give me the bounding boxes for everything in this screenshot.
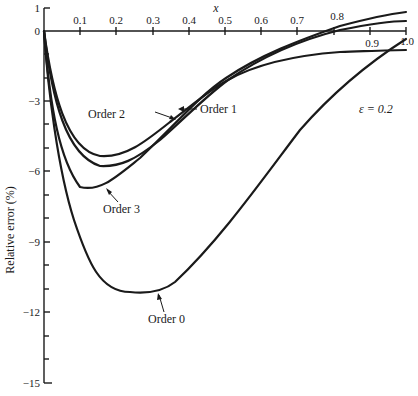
x-tick-0.8: 0.8 — [330, 10, 344, 22]
x-tick-0.5: 0.5 — [218, 14, 232, 26]
y-tick-1: 1 — [35, 2, 41, 14]
label-order-3: Order 3 — [103, 202, 140, 216]
x-tick-0.6: 0.6 — [254, 14, 268, 26]
x-tick-0.7: 0.7 — [290, 14, 304, 26]
curves — [44, 12, 406, 293]
epsilon-annotation: ε = 0.2 — [359, 102, 393, 116]
curve-order-3 — [44, 12, 406, 188]
x-axis-title: x — [212, 1, 219, 15]
label-order-2: Order 2 — [88, 107, 125, 121]
label-order-0: Order 0 — [148, 312, 185, 326]
curve-order-0 — [44, 31, 406, 293]
y-tick-minus9: −9 — [28, 236, 40, 248]
relative-error-chart: 1 0 −3 −6 −9 −12 −15 Relative error (%) … — [0, 0, 418, 396]
y-tick-minus6: −6 — [28, 165, 40, 177]
x-axis: 0.1 0.2 0.3 0.4 0.5 0.6 0.7 0.8 0.9 1.0 … — [44, 1, 414, 49]
x-tick-0.4: 0.4 — [182, 14, 196, 26]
label-order-1: Order 1 — [200, 102, 237, 116]
y-tick-minus3: −3 — [28, 95, 40, 107]
y-tick-minus12: −12 — [23, 306, 40, 318]
x-tick-0.2: 0.2 — [109, 14, 123, 26]
curve-order-2 — [44, 31, 406, 156]
y-tick-0: 0 — [35, 25, 41, 37]
y-tick-minus15: −15 — [23, 377, 41, 389]
x-tick-0.3: 0.3 — [146, 14, 160, 26]
y-axis-title: Relative error (%) — [3, 186, 17, 273]
x-tick-0.9: 0.9 — [365, 37, 379, 49]
y-axis: 1 0 −3 −6 −9 −12 −15 Relative error (%) — [3, 2, 52, 389]
curve-order-1 — [44, 21, 406, 166]
x-tick-0.1: 0.1 — [73, 14, 87, 26]
